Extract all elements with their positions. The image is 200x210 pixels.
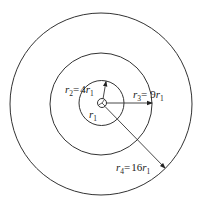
r4-arrow: [105, 107, 165, 169]
diagram-canvas: r2=4r1 r1 r3=9r1 r4=16r1: [0, 0, 200, 210]
concentric-orbit-diagram: r2=4r1 r1 r3=9r1 r4=16r1: [0, 0, 200, 210]
r2-arrow: [103, 82, 106, 100]
r3-label: r3=9r1: [133, 88, 164, 103]
r4-label: r4=16r1: [116, 161, 151, 176]
r2-label: r2=4r1: [65, 83, 94, 98]
r1-label: r1: [89, 108, 97, 123]
center-mark: [99, 100, 106, 107]
